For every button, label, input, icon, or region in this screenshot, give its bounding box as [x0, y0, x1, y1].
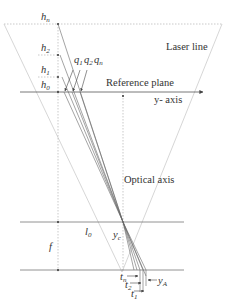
label-yA: yA: [157, 275, 168, 288]
label-qn: qn: [94, 54, 103, 67]
label-t1: t1: [131, 288, 137, 301]
label-q1: q1: [74, 54, 83, 67]
label-h0: h0: [41, 79, 50, 92]
reference-plane-label: Reference plane: [106, 77, 174, 88]
label-hn: hn: [41, 11, 50, 24]
label-l0: l0: [85, 226, 92, 239]
y-axis-label: y- axis: [154, 94, 182, 105]
optical-axis-label: Optical axis: [124, 174, 174, 185]
laser-funnel-left-edge: [4, 24, 122, 272]
label-q2: q2: [84, 54, 93, 67]
label-h2: h2: [41, 42, 50, 55]
optical-triangulation-diagram: Laser line Reference plane y- axis Optic…: [0, 0, 229, 307]
label-h1: h1: [41, 64, 50, 77]
label-yc: yc: [112, 229, 122, 242]
label-f: f: [49, 241, 54, 252]
laser-funnel-right-edge: [122, 24, 222, 272]
laser-line-label: Laser line: [166, 41, 208, 52]
